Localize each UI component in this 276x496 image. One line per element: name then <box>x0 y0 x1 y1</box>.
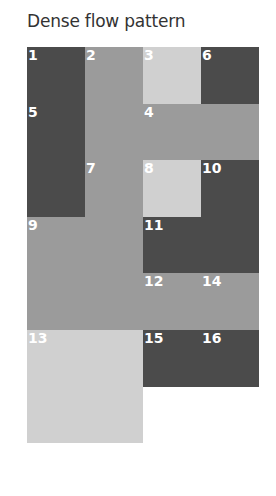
grid-item-label: 1 <box>28 48 38 63</box>
grid-item-4: 4 <box>143 104 259 161</box>
grid-item-label: 2 <box>86 48 96 63</box>
grid-item-6: 6 <box>201 47 259 104</box>
grid-item-16: 16 <box>201 330 259 387</box>
grid-item-label: 8 <box>144 161 154 176</box>
grid-item-3: 3 <box>143 47 201 104</box>
grid-item-label: 12 <box>144 274 163 289</box>
grid-item-label: 5 <box>28 105 38 120</box>
dense-grid: 1 2 3 6 5 4 7 8 10 9 11 12 14 13 15 16 <box>27 47 259 443</box>
grid-item-label: 13 <box>28 331 47 346</box>
grid-item-label: 7 <box>86 161 96 176</box>
grid-item-8: 8 <box>143 160 201 217</box>
diagram-title: Dense flow pattern <box>27 11 185 31</box>
grid-item-label: 16 <box>202 331 221 346</box>
grid-item-label: 4 <box>144 105 154 120</box>
grid-item-10: 10 <box>201 160 259 217</box>
grid-item-label: 9 <box>28 218 38 233</box>
grid-item-14: 14 <box>201 273 259 330</box>
grid-item-label: 11 <box>144 218 163 233</box>
grid-item-13: 13 <box>27 330 143 443</box>
grid-item-9: 9 <box>27 217 143 330</box>
grid-item-15: 15 <box>143 330 201 387</box>
grid-item-5: 5 <box>27 104 85 217</box>
grid-item-label: 14 <box>202 274 221 289</box>
grid-item-11: 11 <box>143 217 259 274</box>
grid-item-label: 6 <box>202 48 212 63</box>
grid-item-2: 2 <box>85 47 143 160</box>
grid-item-7: 7 <box>85 160 143 217</box>
grid-item-label: 3 <box>144 48 154 63</box>
grid-item-label: 15 <box>144 331 163 346</box>
grid-item-12: 12 <box>143 273 201 330</box>
grid-item-1: 1 <box>27 47 85 104</box>
grid-item-label: 10 <box>202 161 221 176</box>
